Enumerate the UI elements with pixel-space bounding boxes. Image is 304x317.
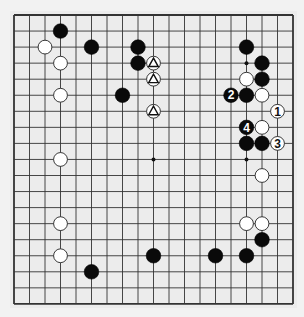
white-stone: 3: [271, 137, 285, 151]
black-stone: [84, 40, 99, 55]
black-stone: [239, 40, 254, 55]
white-stone: [54, 56, 68, 70]
black-stone: [131, 56, 146, 71]
black-stone: [255, 232, 270, 247]
move-number-label: 3: [274, 137, 281, 151]
black-stone: [255, 72, 270, 87]
white-stone: [255, 217, 269, 231]
move-number-label: 2: [228, 88, 235, 102]
black-stone: 4: [239, 120, 254, 135]
white-stone: [255, 169, 269, 183]
white-stone: [255, 120, 269, 134]
white-stone: [255, 88, 269, 102]
white-stone: [240, 217, 254, 231]
black-stone: [239, 248, 254, 263]
white-stone: [54, 88, 68, 102]
go-board: 2413: [0, 0, 304, 317]
star-point: [152, 157, 156, 161]
black-stone: [115, 88, 130, 103]
star-point: [245, 61, 249, 65]
black-stone: [84, 265, 99, 280]
black-stone: [239, 88, 254, 103]
white-stone: [240, 72, 254, 86]
black-stone: [208, 248, 223, 263]
white-stone: [38, 40, 52, 54]
black-stone: [53, 24, 68, 39]
black-stone: [255, 56, 270, 71]
white-stone: [54, 217, 68, 231]
black-stone: [131, 40, 146, 55]
black-stone: 2: [224, 88, 239, 103]
white-stone: [54, 153, 68, 167]
black-stone: [239, 136, 254, 151]
white-stone: [54, 249, 68, 263]
black-stone: [146, 248, 161, 263]
star-point: [245, 157, 249, 161]
black-stone: [255, 136, 270, 151]
white-stone: [147, 56, 161, 70]
move-number-label: 1: [274, 105, 281, 119]
white-stone: 1: [271, 104, 285, 118]
white-stone: [147, 104, 161, 118]
white-stone: [147, 72, 161, 86]
move-number-label: 4: [243, 121, 250, 135]
